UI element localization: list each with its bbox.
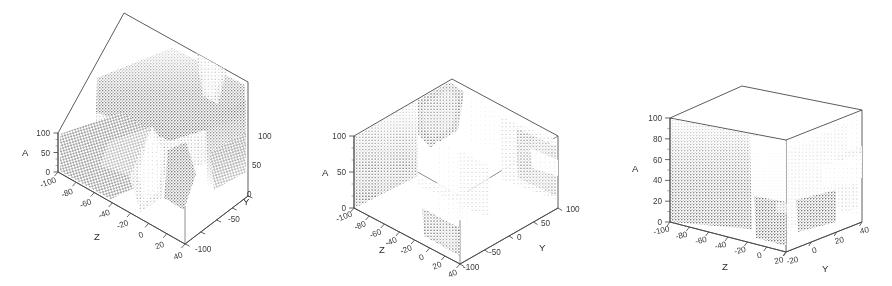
- plot-2-density: [355, 82, 558, 256]
- plot-1-canvas: 100 50 0 A -100 -80: [0, 0, 300, 286]
- plot-3-z-axis-title: Z: [722, 261, 728, 272]
- plot-2-z-tick--80: -80: [353, 219, 368, 232]
- plot-1-z-tick-0: 0: [137, 230, 145, 240]
- plot-1-z-tick--100: -100: [39, 175, 58, 189]
- plot-3-z-tick--60: -60: [694, 235, 708, 247]
- plot-3-a-tick-80: 80: [653, 135, 663, 144]
- plot-2-z-tick--60: -60: [368, 227, 383, 240]
- plot-1-y-tick-100: 100: [258, 132, 272, 141]
- plot-1-y-tick-50: 50: [252, 161, 262, 170]
- plot-2-z-axis-title: Z: [379, 244, 385, 255]
- plot-3-axis-a: 100 80 60 40 20 0 A: [632, 114, 670, 227]
- plot-2-y-tick-0: 0: [517, 233, 522, 242]
- plot-1-z-tick--60: -60: [79, 197, 94, 210]
- plot-1-a-tick-0: 0: [45, 168, 50, 177]
- plot-1-y-tick--100: -100: [195, 245, 212, 254]
- plot-2-z-tick-40: 40: [447, 268, 459, 280]
- plot-3-z-tick--100: -100: [652, 224, 670, 237]
- plot-3-a-tick-20: 20: [653, 197, 663, 206]
- plot-2-z-tick-0: 0: [418, 252, 426, 262]
- plot-2-axis-a: 100 50 0 A: [322, 132, 354, 213]
- plot-3-z-tick--20: -20: [733, 245, 747, 257]
- plot-1-y-axis-title: Y: [243, 196, 250, 207]
- plot-3-y-tick-40: 40: [859, 225, 870, 236]
- plot-3-y-tick-0: 0: [811, 246, 818, 256]
- plot-2-y-tick--100: -100: [463, 263, 480, 272]
- plot-2-canvas: 100 50 0 A -100 -80 -60 -40 -20: [300, 0, 600, 286]
- plot-panel-1: 100 50 0 A -100 -80: [0, 0, 300, 286]
- plot-panel-2: 100 50 0 A -100 -80 -60 -40 -20: [300, 0, 600, 286]
- plot-2-a-tick-50: 50: [337, 168, 347, 177]
- plot-1-z-tick--80: -80: [60, 187, 75, 200]
- plot-2-y-tick-100: 100: [566, 205, 580, 214]
- plot-2-a-axis-title: A: [322, 167, 329, 178]
- plot-3-density: [671, 112, 862, 246]
- plot-2-z-tick--20: -20: [399, 243, 414, 256]
- plot-1-axis-a: 100 50 0 A: [22, 129, 58, 177]
- plot-2-a-tick-100: 100: [332, 132, 346, 141]
- plot-2-y-tick--50: -50: [489, 248, 501, 257]
- plot-1-z-tick--20: -20: [116, 218, 131, 231]
- plot-1-z-tick--40: -40: [97, 208, 112, 221]
- plot-2-y-axis-title: Y: [539, 242, 546, 253]
- plot-3-canvas: 100 80 60 40 20 0 A -100 -80 -60: [600, 0, 892, 286]
- plot-3-z-tick--40: -40: [714, 240, 728, 252]
- plot-2-axis-y: 100 50 0 -50 -100 Y: [460, 205, 580, 272]
- plot-1-a-tick-50: 50: [41, 149, 51, 158]
- plot-1-a-axis-title: A: [22, 147, 29, 158]
- plot-1-y-tick--50: -50: [228, 215, 240, 224]
- plot-1-z-tick-40: 40: [172, 250, 184, 262]
- figure-container: 100 50 0 A -100 -80: [0, 0, 892, 286]
- plot-3-y-tick-20: 20: [834, 235, 845, 246]
- plot-3-z-tick-20: 20: [773, 255, 784, 266]
- plot-1-z-tick-20: 20: [154, 240, 166, 252]
- plot-3-z-tick-0: 0: [756, 251, 763, 261]
- plot-1-a-tick-100: 100: [36, 129, 50, 138]
- plot-3-a-tick-40: 40: [653, 176, 663, 185]
- plot-2-z-tick--40: -40: [384, 235, 399, 248]
- plot-3-a-tick-60: 60: [653, 156, 663, 165]
- plot-3-a-axis-title: A: [632, 163, 639, 174]
- plot-3-y-tick--20: -20: [786, 255, 800, 267]
- plot-3-z-tick--80: -80: [675, 230, 689, 242]
- plot-1-surface: [60, 44, 246, 212]
- plot-panel-3: 100 80 60 40 20 0 A -100 -80 -60: [600, 0, 892, 286]
- plot-3-y-axis-title: Y: [822, 263, 829, 274]
- plot-2-y-tick-50: 50: [541, 219, 551, 228]
- plot-2-z-tick-20: 20: [431, 260, 443, 272]
- plot-1-z-axis-title: Z: [94, 231, 100, 242]
- plot-3-a-tick-100: 100: [648, 114, 662, 123]
